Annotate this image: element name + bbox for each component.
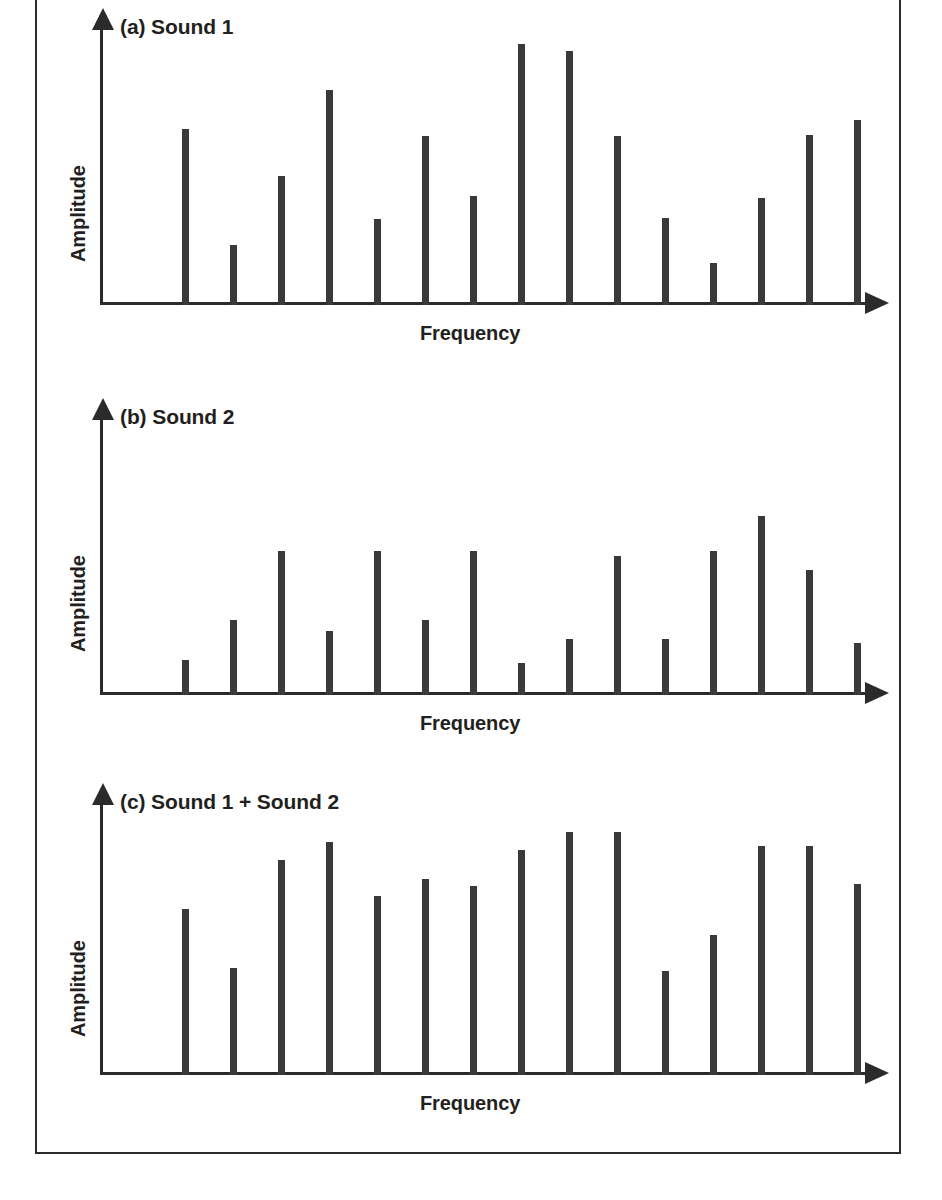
panel-a-plot-area [100,22,890,305]
spectral-bar [182,660,189,695]
panel-sound-2: (b) Sound 2 Amplitude Frequency [37,390,903,750]
panel-c-plot-area [100,797,890,1075]
spectral-bar [566,51,573,305]
spectral-bar [422,879,429,1075]
figure-frame: (a) Sound 1 Amplitude Frequency (b) Soun… [35,0,901,1154]
spectral-bar [230,245,237,305]
panel-b-y-axis-label: Amplitude [67,555,90,652]
panel-sound-1: (a) Sound 1 Amplitude Frequency [37,0,903,360]
spectral-bar [374,551,381,695]
spectral-bar [854,884,861,1075]
spectral-bar [470,196,477,305]
spectral-bar [806,135,813,305]
panel-c-y-axis-label: Amplitude [67,940,90,1037]
spectral-bar [854,120,861,305]
spectral-bar [854,643,861,696]
x-axis-arrow-icon [865,292,889,314]
spectral-bar [374,896,381,1075]
spectral-bar [422,136,429,305]
spectral-bar [182,909,189,1075]
spectral-bar [614,136,621,305]
y-axis-line [100,805,103,1075]
y-axis-arrow-icon [92,398,114,420]
spectral-bar [230,620,237,695]
spectral-bar [662,971,669,1075]
spectral-bar [566,832,573,1075]
spectral-bar [710,551,717,695]
spectral-bar [278,860,285,1075]
y-axis-line [100,30,103,305]
spectral-bar [662,218,669,306]
spectral-bar [278,176,285,305]
spectral-bar [470,886,477,1075]
spectral-bar [518,663,525,696]
spectral-bar [662,639,669,695]
spectral-bar [758,846,765,1076]
spectral-bar [326,631,333,695]
spectral-bar [758,516,765,695]
panel-a-x-axis-label: Frequency [420,322,520,345]
spectral-bar [230,968,237,1075]
panel-a-y-axis-label: Amplitude [67,165,90,262]
x-axis-line [100,302,870,305]
spectral-bar [374,219,381,305]
spectral-bar [518,44,525,305]
x-axis-line [100,692,870,695]
spectral-bar [278,551,285,695]
panel-sound-1-plus-sound-2: (c) Sound 1 + Sound 2 Amplitude Frequenc… [37,775,903,1145]
panel-b-plot-area [100,412,890,695]
spectral-bar [470,551,477,695]
spectral-bar [710,263,717,306]
x-axis-arrow-icon [865,682,889,704]
spectral-bar [518,850,525,1075]
spectral-bar [422,620,429,695]
x-axis-arrow-icon [865,1062,889,1084]
spectral-bar [326,842,333,1075]
spectral-bar [614,832,621,1075]
spectral-bar [710,935,717,1075]
y-axis-arrow-icon [92,8,114,30]
spectral-bar [566,639,573,695]
y-axis-line [100,420,103,695]
spectral-bar [614,556,621,695]
spectral-bar [182,129,189,305]
spectral-bar [758,198,765,306]
x-axis-line [100,1072,870,1075]
panel-b-x-axis-label: Frequency [420,712,520,735]
y-axis-arrow-icon [92,783,114,805]
spectral-bar [326,90,333,305]
spectral-bar [806,846,813,1076]
spectral-bar [806,570,813,695]
panel-c-x-axis-label: Frequency [420,1092,520,1115]
